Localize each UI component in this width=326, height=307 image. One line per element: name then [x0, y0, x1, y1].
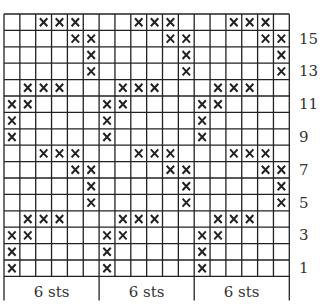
row-number-label: 7: [299, 162, 309, 178]
stitch-mark-x-icon: [24, 231, 31, 239]
stitch-mark-x-icon: [8, 248, 15, 256]
stitch-mark-x-icon: [56, 84, 63, 92]
stitch-mark-x-icon: [278, 199, 285, 207]
stitch-mark-x-icon: [230, 84, 237, 92]
stitch-mark-x-icon: [8, 100, 15, 108]
repeat-width-label: 6 sts: [194, 283, 289, 301]
stitch-mark-x-icon: [183, 199, 190, 207]
stitch-mark-x-icon: [198, 100, 205, 108]
stitch-mark-x-icon: [40, 149, 47, 157]
stitch-mark-x-icon: [24, 100, 31, 108]
stitch-mark-x-icon: [87, 199, 94, 207]
repeat-width-label: 6 sts: [99, 283, 194, 301]
stitch-mark-x-icon: [8, 264, 15, 272]
stitch-mark-x-icon: [119, 215, 126, 223]
stitch-mark-x-icon: [87, 182, 94, 190]
stitch-mark-x-icon: [119, 84, 126, 92]
stitch-mark-x-icon: [278, 51, 285, 59]
stitch-mark-x-icon: [56, 18, 63, 26]
row-number-label: 13: [299, 63, 318, 79]
stitch-mark-x-icon: [278, 166, 285, 174]
stitch-mark-x-icon: [87, 166, 94, 174]
stitch-mark-x-icon: [8, 231, 15, 239]
stitch-mark-x-icon: [8, 117, 15, 125]
row-number-label: 11: [299, 96, 318, 112]
stitch-mark-x-icon: [135, 149, 142, 157]
stitch-mark-x-icon: [214, 100, 221, 108]
stitch-mark-x-icon: [183, 166, 190, 174]
stitch-mark-x-icon: [214, 84, 221, 92]
chart-grid: [0, 0, 326, 307]
stitch-mark-x-icon: [135, 84, 142, 92]
stitch-mark-x-icon: [56, 149, 63, 157]
stitch-mark-x-icon: [198, 231, 205, 239]
stitch-mark-x-icon: [198, 248, 205, 256]
stitch-mark-x-icon: [167, 35, 174, 43]
stitch-mark-x-icon: [151, 149, 158, 157]
stitch-mark-x-icon: [72, 35, 79, 43]
stitch-mark-x-icon: [151, 18, 158, 26]
stitch-mark-x-icon: [40, 18, 47, 26]
stitch-mark-x-icon: [103, 248, 110, 256]
row-number-label: 15: [299, 31, 318, 47]
stitch-mark-x-icon: [56, 215, 63, 223]
stitch-mark-x-icon: [230, 18, 237, 26]
stitch-mark-x-icon: [278, 67, 285, 75]
stitch-mark-x-icon: [40, 84, 47, 92]
stitch-mark-x-icon: [119, 100, 126, 108]
stitch-mark-x-icon: [87, 67, 94, 75]
stitch-mark-x-icon: [167, 166, 174, 174]
stitch-mark-x-icon: [278, 35, 285, 43]
stitch-mark-x-icon: [183, 35, 190, 43]
stitch-mark-x-icon: [87, 35, 94, 43]
stitch-mark-x-icon: [103, 117, 110, 125]
row-number-label: 9: [299, 129, 309, 145]
stitch-mark-x-icon: [183, 182, 190, 190]
stitch-mark-x-icon: [262, 149, 269, 157]
stitch-mark-x-icon: [183, 67, 190, 75]
stitch-mark-x-icon: [24, 84, 31, 92]
stitch-mark-x-icon: [151, 215, 158, 223]
row-number-label: 3: [299, 227, 309, 243]
stitch-mark-x-icon: [167, 149, 174, 157]
stitch-mark-x-icon: [119, 231, 126, 239]
stitch-mark-x-icon: [246, 84, 253, 92]
stitch-mark-x-icon: [214, 231, 221, 239]
stitch-mark-x-icon: [103, 231, 110, 239]
row-number-label: 5: [299, 195, 309, 211]
stitch-mark-x-icon: [8, 133, 15, 141]
stitch-mark-x-icon: [262, 166, 269, 174]
stitch-mark-x-icon: [167, 18, 174, 26]
stitch-mark-x-icon: [72, 18, 79, 26]
stitch-mark-x-icon: [262, 35, 269, 43]
stitch-mark-x-icon: [103, 100, 110, 108]
stitch-mark-x-icon: [40, 215, 47, 223]
stitch-mark-x-icon: [198, 117, 205, 125]
stitch-mark-x-icon: [151, 84, 158, 92]
stitch-mark-x-icon: [278, 182, 285, 190]
stitch-mark-x-icon: [230, 215, 237, 223]
stitch-mark-x-icon: [183, 51, 190, 59]
stitch-mark-x-icon: [198, 264, 205, 272]
stitch-mark-x-icon: [87, 51, 94, 59]
stitch-mark-x-icon: [135, 18, 142, 26]
stitch-mark-x-icon: [103, 133, 110, 141]
stitch-mark-x-icon: [198, 133, 205, 141]
stitch-mark-x-icon: [103, 264, 110, 272]
stitch-mark-x-icon: [262, 18, 269, 26]
stitch-mark-x-icon: [246, 215, 253, 223]
stitch-mark-x-icon: [246, 149, 253, 157]
stitch-mark-x-icon: [246, 18, 253, 26]
knitting-chart: 15131197531 6 sts6 sts6 sts: [0, 0, 326, 307]
stitch-mark-x-icon: [72, 166, 79, 174]
stitch-mark-x-icon: [24, 215, 31, 223]
repeat-width-label: 6 sts: [4, 283, 99, 301]
stitch-mark-x-icon: [135, 215, 142, 223]
stitch-mark-x-icon: [214, 215, 221, 223]
stitch-mark-x-icon: [230, 149, 237, 157]
row-number-label: 1: [299, 260, 309, 276]
stitch-mark-x-icon: [72, 149, 79, 157]
